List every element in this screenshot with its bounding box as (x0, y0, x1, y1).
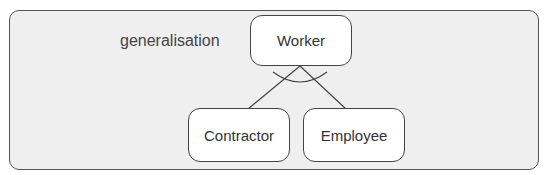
edge-worker-employee (300, 66, 346, 109)
node-worker[interactable]: Worker (250, 15, 352, 66)
generalisation-arc-icon (273, 72, 327, 82)
node-worker-label: Worker (277, 32, 325, 49)
node-employee[interactable]: Employee (303, 108, 405, 162)
node-contractor-label: Contractor (204, 127, 274, 144)
node-employee-label: Employee (321, 127, 388, 144)
node-contractor[interactable]: Contractor (188, 108, 290, 162)
